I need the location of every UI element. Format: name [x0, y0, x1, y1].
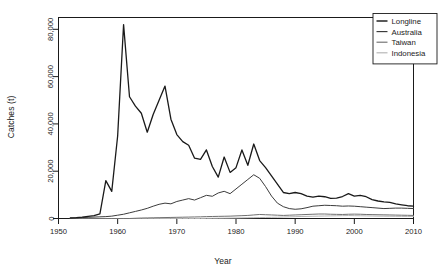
y-axis-ticks: 020,00040,00060,00080,000	[47, 18, 59, 221]
legend-label-taiwan: Taiwan	[392, 38, 416, 47]
x-tick-label: 1990	[287, 227, 304, 236]
y-axis-title: Catches (t)	[6, 87, 16, 147]
y-tick-label: 0	[47, 216, 56, 220]
chart-canvas: 1950196019701980199020002010 020,00040,0…	[0, 0, 446, 274]
chart-legend: LonglineAustraliaTaiwanIndonesia	[373, 14, 437, 64]
legend-label-indonesia: Indonesia	[392, 49, 426, 58]
y-tick-label: 20,000	[47, 160, 56, 183]
x-tick-label: 1970	[168, 227, 185, 236]
legend-label-australia: Australia	[392, 28, 423, 37]
series-line-australia	[70, 175, 413, 218]
x-tick-label: 1960	[109, 227, 126, 236]
x-tick-label: 2000	[346, 227, 363, 236]
legend-label-longline: Longline	[392, 17, 421, 26]
x-tick-label: 1950	[50, 227, 67, 236]
y-tick-label: 60,000	[47, 65, 56, 88]
x-tick-label: 2010	[405, 227, 422, 236]
y-tick-label: 40,000	[47, 112, 56, 135]
catches-line-chart: 1950196019701980199020002010 020,00040,0…	[0, 0, 446, 274]
series-line-longline	[70, 25, 413, 218]
data-series-group	[70, 25, 413, 219]
y-tick-label: 80,000	[47, 18, 56, 41]
x-axis-title: Year	[0, 256, 446, 266]
x-axis-ticks: 1950196019701980199020002010	[50, 219, 422, 236]
x-tick-label: 1980	[228, 227, 245, 236]
